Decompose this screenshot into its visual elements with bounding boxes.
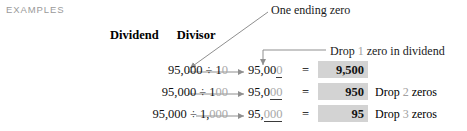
row-2-note-count: 2 (403, 85, 409, 99)
row-3-equals: = (302, 107, 309, 122)
row-1-left-expression: 95,000 ÷ 10 (108, 63, 228, 78)
table-row: 95,000 ÷ 100 95,000 = 950 Drop 2 zeros (0, 82, 467, 104)
dividend-heading: Dividend (110, 28, 159, 42)
row-2-note-prefix: Drop (375, 85, 400, 99)
row-2-division-sign: ÷ (199, 85, 206, 99)
row-1-result: 9,500 (318, 61, 368, 78)
row-2-restated-keep: 95,0 (248, 85, 270, 99)
row-3-restated-dropped: 000 (264, 107, 283, 122)
row-3-drop-note: Drop 3 zeros (375, 107, 437, 122)
row-3-note-prefix: Drop (375, 107, 400, 121)
row-2-result: 950 (318, 83, 368, 100)
row-3-restated-keep: 95, (248, 107, 264, 121)
table-row: 95,000 ÷ 10 95,000 = 9,500 (0, 60, 467, 82)
row-3-division-sign: ÷ (190, 107, 197, 121)
callout-drop-suffix: zero in dividend (367, 44, 445, 58)
row-3-note-suffix: zeros (412, 107, 437, 121)
row-3-result: 95 (318, 105, 368, 122)
row-2-note-suffix: zeros (412, 85, 437, 99)
row-3-left-expression: 95,000 ÷ 1,000 (108, 107, 228, 122)
row-2-equals: = (302, 85, 309, 100)
row-1-division-sign: ÷ (206, 63, 213, 77)
row-2-drop-note: Drop 2 zeros (375, 85, 437, 100)
row-1-divisor-zeros: 0 (222, 63, 228, 77)
column-headings: DividendDivisor (110, 28, 216, 43)
row-1-restated-keep: 95,00 (248, 63, 276, 77)
row-3-divisor-zeros: 000 (209, 107, 228, 121)
row-1-dividend: 95,000 (168, 63, 202, 77)
callout-drop-one-zero: Drop 1 zero in dividend (330, 44, 445, 59)
callout-one-ending-zero: One ending zero (271, 3, 350, 18)
equation-rows: 95,000 ÷ 10 95,000 = 9,500 95,000 ÷ 100 … (0, 60, 467, 126)
row-3-note-count: 3 (403, 107, 409, 121)
row-3-restated-dividend: 95,000 (248, 107, 282, 122)
row-1-restated-dividend: 95,000 (248, 63, 282, 78)
row-1-equals: = (302, 63, 309, 78)
row-3-dividend: 95,000 (152, 107, 186, 121)
divisor-heading: Divisor (177, 28, 216, 42)
row-2-left-expression: 95,000 ÷ 100 (108, 85, 228, 100)
examples-figure: EXAMPLES DividendDivisor One ending zero… (0, 0, 467, 131)
row-1-restated-dropped: 0 (276, 63, 282, 78)
callout-drop-prefix: Drop (330, 44, 355, 58)
row-2-restated-dividend: 95,000 (248, 85, 282, 100)
table-row: 95,000 ÷ 1,000 95,000 = 95 Drop 3 zeros (0, 104, 467, 126)
callout-drop-count: 1 (358, 44, 364, 58)
row-3-divisor-lead: 1, (200, 107, 209, 121)
examples-label: EXAMPLES (6, 4, 64, 15)
row-2-dividend: 95,000 (162, 85, 196, 99)
row-2-divisor-zeros: 00 (216, 85, 229, 99)
row-2-restated-dropped: 00 (270, 85, 283, 100)
